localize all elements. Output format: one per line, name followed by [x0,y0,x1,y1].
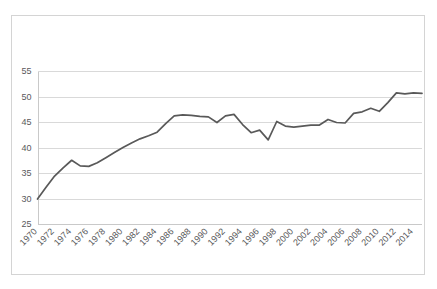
x-tick-label-1986: 1986 [154,226,175,247]
x-tick-label-2008: 2008 [342,226,363,247]
y-tick-labels-group: 55504540353025 [21,66,31,229]
x-tick-label-2006: 2006 [325,226,346,247]
x-tick-label-2014: 2014 [394,226,415,247]
line-chart[interactable]: 55504540353025 1970197219741976197819801… [0,0,437,289]
x-tick-label-1996: 1996 [240,226,261,247]
y-tick-label-40: 40 [21,143,31,153]
x-tick-label-1984: 1984 [137,226,158,247]
y-tick-label-45: 45 [21,117,31,127]
y-tick-label-55: 55 [21,66,31,76]
x-tick-label-1974: 1974 [52,226,73,247]
x-tick-label-1992: 1992 [206,226,227,247]
x-tick-label-1980: 1980 [103,226,124,247]
x-tick-label-2000: 2000 [274,226,295,247]
x-tick-label-1972: 1972 [35,226,56,247]
x-tick-label-2010: 2010 [359,226,380,247]
chart-figure: 55504540353025 1970197219741976197819801… [0,0,437,289]
x-tick-label-2012: 2012 [377,226,398,247]
x-tick-label-1990: 1990 [189,226,210,247]
x-tick-label-1976: 1976 [69,226,90,247]
x-tick-label-2002: 2002 [291,226,312,247]
series-line-1 [38,93,423,199]
x-tick-label-1988: 1988 [171,226,192,247]
x-tick-label-1998: 1998 [257,226,278,247]
axes-group [38,71,423,225]
gridlines-group [38,72,423,200]
y-tick-label-30: 30 [21,194,31,204]
data-series-group [38,93,423,199]
y-tick-label-50: 50 [21,92,31,102]
x-tick-labels-group: 1970197219741976197819801982198419861988… [18,226,415,247]
x-tick-label-1970: 1970 [18,226,39,247]
x-tick-label-1978: 1978 [86,226,107,247]
y-tick-label-35: 35 [21,168,31,178]
x-tick-label-2004: 2004 [308,226,329,247]
x-tick-label-1982: 1982 [120,226,141,247]
x-tick-label-1994: 1994 [223,226,244,247]
